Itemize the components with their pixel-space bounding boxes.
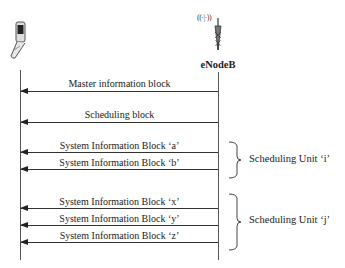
message-arrow [21, 225, 218, 226]
arrow-head-icon [20, 166, 28, 172]
message-arrow [21, 152, 218, 153]
scheduling-unit-label: Scheduling Unit ‘i’ [249, 153, 330, 164]
arrow-head-icon [20, 88, 28, 94]
message-arrow [21, 91, 218, 92]
message-arrow [21, 122, 218, 123]
arrow-head-icon [20, 149, 28, 155]
message-arrow [21, 208, 218, 209]
message-arrow [21, 169, 218, 170]
message-label: System Information Block ‘x’ [21, 196, 218, 207]
antenna-tower-icon [212, 16, 224, 52]
arrow-head-icon [20, 239, 28, 245]
enodeb-label: eNodeB [196, 59, 240, 70]
radio-waves-icon: ((·|·)) [197, 13, 211, 22]
message-label: System Information Block ‘z’ [21, 230, 218, 241]
arrow-head-icon [20, 119, 28, 125]
mobile-phone-icon [8, 20, 32, 62]
message-label: Master information block [21, 78, 218, 89]
bracket-scheduling-unit-j [228, 192, 244, 252]
message-label: System Information Block ‘a’ [21, 140, 218, 151]
message-label: System Information Block ‘y’ [21, 213, 218, 224]
enodeb-lifeline [218, 72, 219, 260]
message-label: Scheduling block [21, 109, 218, 120]
arrow-head-icon [20, 205, 28, 211]
arrow-head-icon [20, 222, 28, 228]
bracket-scheduling-unit-i [228, 140, 244, 180]
message-arrow [21, 242, 218, 243]
message-label: System Information Block ‘b’ [21, 157, 218, 168]
scheduling-unit-label: Scheduling Unit ‘j’ [249, 214, 330, 225]
